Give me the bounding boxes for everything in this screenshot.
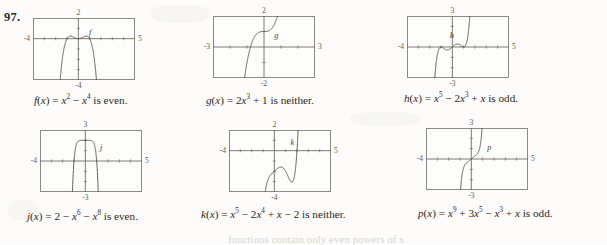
graph-f: 2-4-45f: [33, 18, 135, 80]
graph-g-curve-label: g: [274, 30, 278, 39]
graph-f-label-right: 5: [138, 35, 142, 43]
graph-h-cell: 3-3-45h: [407, 16, 509, 78]
graph-p-plot: [426, 128, 528, 190]
graph-k-cell: 2-4-45k: [229, 130, 331, 192]
graph-j-label-top: 3: [83, 121, 87, 129]
graph-p-label-left: -4: [417, 155, 423, 163]
graph-g-label-right: 3: [318, 43, 322, 51]
graph-g-label-bottom: -2: [261, 80, 267, 88]
graph-h-curve-label: h: [450, 30, 454, 39]
graph-k-caption: k(x) = x5 − 2x4 + x − 2 is neither.: [201, 209, 346, 220]
graph-p-label-bottom: -3: [468, 192, 474, 200]
graph-h-label-right: 5: [512, 43, 516, 51]
graph-p-curve-label: p: [487, 142, 491, 151]
graph-g-label-left: -3: [204, 43, 210, 51]
graph-h-plot: [407, 16, 509, 78]
graph-p-label-top: 3: [469, 119, 473, 127]
graph-f-curve-label: f: [89, 27, 91, 36]
scan-smudge: [150, 5, 210, 23]
graph-p-cell: 3-3-45p: [426, 128, 528, 190]
graph-k-curve-label: k: [290, 138, 294, 147]
graph-f-label-top: 2: [76, 9, 80, 17]
footer-text: functions contain only even powers of x: [228, 233, 405, 245]
graph-j-curve-label: j: [100, 143, 102, 152]
graph-g: 2-2-33g: [213, 16, 315, 78]
graph-f-label-left: -4: [24, 35, 30, 43]
graph-k: 2-4-45k: [229, 130, 331, 192]
graph-k-label-left: -4: [220, 147, 226, 155]
graph-g-cell: 2-2-33g: [213, 16, 315, 78]
graph-h-label-left: -4: [398, 43, 404, 51]
graph-j-plot: [40, 130, 142, 192]
graph-p: 3-3-45p: [426, 128, 528, 190]
graph-g-caption: g(x) = 2x3 + 1 is neither.: [206, 95, 314, 106]
graph-p-caption: p(x) = x9 + 3x5 − x3 + x is odd.: [418, 208, 553, 219]
graph-k-label-right: 5: [334, 147, 338, 155]
graph-k-label-top: 2: [272, 121, 276, 129]
graph-j-label-bottom: -3: [82, 194, 88, 202]
graph-j-cell: 3-3-45j: [40, 130, 142, 192]
graph-h-label-bottom: -3: [449, 80, 455, 88]
graph-j-label-right: 5: [145, 157, 149, 165]
graph-h: 3-3-45h: [407, 16, 509, 78]
graph-k-label-bottom: -4: [271, 194, 277, 202]
graph-j-label-left: -4: [31, 157, 37, 165]
graph-h-caption: h(x) = x5 − 2x3 + x is odd.: [404, 93, 518, 104]
graph-h-label-top: 3: [450, 7, 454, 15]
graph-f-caption: f(x) = x2 − x4 is even.: [34, 95, 127, 106]
scan-smudge: [350, 112, 420, 126]
graph-f-cell: 2-4-45f: [33, 18, 135, 80]
graph-g-plot: [213, 16, 315, 78]
graph-k-plot: [229, 130, 331, 192]
problem-number: 97.: [4, 10, 20, 25]
graph-f-label-bottom: -4: [75, 82, 81, 90]
graph-j: 3-3-45j: [40, 130, 142, 192]
graph-f-plot: [33, 18, 135, 80]
graph-j-caption: j(x) = 2 − x6 − x8 is even.: [27, 211, 138, 222]
graph-p-label-right: 5: [531, 155, 535, 163]
graph-g-label-top: 2: [262, 7, 266, 15]
